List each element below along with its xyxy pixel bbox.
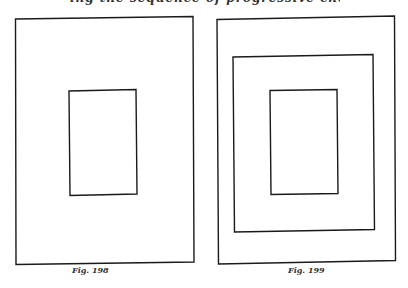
fig199-caption: Fig. 199 (288, 265, 325, 275)
fig198-inner-rectangle (69, 90, 137, 196)
figures-canvas (0, 0, 408, 288)
figure-198 (16, 17, 195, 265)
fig199-middle-rectangle (233, 55, 375, 233)
fig198-outer-rectangle (16, 17, 195, 265)
figure-199 (217, 16, 396, 264)
fig199-outer-rectangle (217, 16, 396, 264)
fig198-caption: Fig. 198 (72, 265, 109, 275)
fig199-inner-rectangle (270, 90, 338, 195)
